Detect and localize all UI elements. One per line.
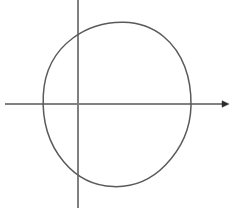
figure-canvas <box>0 0 233 220</box>
geometry-figure-svg <box>0 0 233 220</box>
horizontal-axis-arrow-icon <box>222 101 229 108</box>
